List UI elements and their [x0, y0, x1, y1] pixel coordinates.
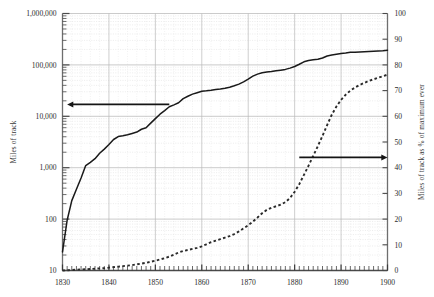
tick-label-left-axis: 10,000: [36, 112, 57, 121]
tick-label-left-axis: 10: [49, 266, 57, 275]
tick-label-left-axis: 100,000: [32, 61, 57, 70]
tick-label-x-axis: 1840: [101, 278, 116, 287]
tick-label-x-axis: 1880: [287, 278, 302, 287]
tick-label-x-axis: 1850: [148, 278, 163, 287]
tick-label-right-axis: 30: [395, 189, 403, 198]
tick-label-right-axis: 20: [395, 215, 403, 224]
tick-label-x-axis: 1830: [55, 278, 70, 287]
tick-label-left-axis: 1,000: [39, 163, 56, 172]
tick-label-right-axis: 100: [395, 9, 407, 18]
left-axis-title: Miles of track: [10, 120, 18, 163]
tick-label-right-axis: 90: [395, 35, 403, 44]
tick-label-x-axis: 1860: [194, 278, 209, 287]
tick-label-x-axis: 1890: [333, 278, 348, 287]
tick-label-x-axis: 1870: [241, 278, 256, 287]
tick-label-x-axis: 1900: [380, 278, 395, 287]
chart-canvas: 101001,00010,000100,0001,000,00001020304…: [0, 0, 434, 297]
right-axis-title: Miles of track as % of maximum ever: [418, 84, 426, 200]
tick-label-right-axis: 10: [395, 241, 403, 250]
tick-label-right-axis: 70: [395, 86, 403, 95]
tick-label-right-axis: 40: [395, 163, 403, 172]
tick-label-right-axis: 80: [395, 61, 403, 70]
railroad-track-chart: 101001,00010,000100,0001,000,00001020304…: [0, 0, 434, 297]
tick-label-left-axis: 100: [45, 215, 57, 224]
tick-label-right-axis: 50: [395, 138, 403, 147]
tick-label-right-axis: 0: [395, 266, 399, 275]
tick-label-right-axis: 60: [395, 112, 403, 121]
tick-label-left-axis: 1,000,000: [26, 9, 57, 18]
